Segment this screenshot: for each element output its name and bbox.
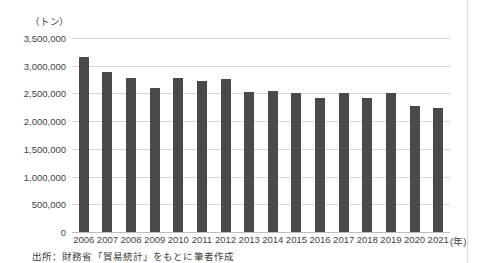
bar	[173, 78, 183, 232]
bar	[268, 91, 278, 232]
y-axis-tick-label: 2,000,000	[24, 116, 66, 127]
y-axis-tick-label: 0	[61, 227, 66, 238]
x-axis-tick-label: 2008	[120, 234, 141, 245]
bar	[339, 93, 349, 232]
x-axis-tick-label: 2016	[309, 234, 330, 245]
x-axis-tick-label: 2011	[192, 234, 212, 245]
bar-slot	[119, 38, 143, 232]
bar	[197, 81, 207, 232]
bars-layer	[72, 38, 450, 232]
bar-slot	[332, 38, 356, 232]
bar-slot	[96, 38, 120, 232]
y-axis-unit-label: （トン）	[30, 14, 69, 28]
bar-slot	[237, 38, 261, 232]
bar-slot	[285, 38, 309, 232]
bar	[150, 88, 160, 232]
x-axis-tick-label: 2009	[144, 234, 165, 245]
bar	[221, 79, 231, 232]
y-axis-tick-label: 3,000,000	[24, 60, 66, 71]
bar	[79, 57, 89, 232]
x-axis-tick-label: 2015	[286, 234, 307, 245]
bar	[386, 93, 396, 232]
x-axis-unit-label: (年)	[450, 234, 466, 248]
bar	[410, 106, 420, 232]
x-axis-tick-label: 2017	[333, 234, 354, 245]
x-axis-tick-label: 2014	[262, 234, 283, 245]
x-axis-tick-label: 2013	[239, 234, 260, 245]
x-axis-tick-label: 2012	[215, 234, 236, 245]
bar-slot	[214, 38, 238, 232]
y-axis-tick-label: 1,000,000	[24, 171, 66, 182]
x-axis-tick-label: 2018	[357, 234, 378, 245]
plot-area: 0500,0001,000,0001,500,0002,000,0002,500…	[72, 38, 450, 232]
bar	[433, 108, 443, 232]
x-axis-labels: 2006200720082009201020112012201320142015…	[72, 234, 450, 248]
axis-baseline	[72, 232, 450, 233]
bar	[315, 98, 325, 232]
y-axis-tick-label: 2,500,000	[24, 88, 66, 99]
x-axis-tick-label: 2010	[168, 234, 189, 245]
bar	[102, 72, 112, 232]
bar-slot	[356, 38, 380, 232]
x-axis-tick-label: 2020	[404, 234, 425, 245]
bar	[362, 98, 372, 232]
page-edge-rule	[467, 0, 468, 263]
x-axis-tick-label: 2007	[97, 234, 118, 245]
x-axis-tick-label: 2006	[73, 234, 94, 245]
y-axis-tick-label: 1,500,000	[24, 143, 66, 154]
bar-slot	[167, 38, 191, 232]
bar-slot	[426, 38, 450, 232]
x-axis-tick-label: 2021	[428, 234, 449, 245]
x-axis-tick-label: 2019	[380, 234, 401, 245]
bar-slot	[72, 38, 96, 232]
bar-slot	[308, 38, 332, 232]
bar	[291, 93, 301, 232]
source-note: 出所：財務省「貿易統計」をもとに筆者作成	[32, 249, 234, 263]
bar-slot	[143, 38, 167, 232]
y-axis-tick-label: 500,000	[32, 199, 66, 210]
bar-slot	[261, 38, 285, 232]
bar-chart-figure: （トン） 0500,0001,000,0001,500,0002,000,000…	[0, 0, 467, 263]
bar	[244, 92, 254, 232]
bar-slot	[403, 38, 427, 232]
bar-slot	[379, 38, 403, 232]
y-axis-tick-label: 3,500,000	[24, 33, 66, 44]
bar	[126, 78, 136, 232]
bar-slot	[190, 38, 214, 232]
